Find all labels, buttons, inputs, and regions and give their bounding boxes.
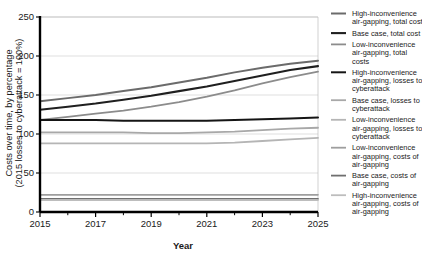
x-tick-label: 2017: [85, 218, 106, 229]
legend-label: costs: [352, 57, 370, 66]
line-chart: 050100150200250 201520172019202120232025…: [0, 0, 422, 253]
series-line-5: [40, 138, 318, 143]
legend-item-5[interactable]: Low-inconvenienceair-gapping, losses toc…: [331, 115, 422, 141]
legend-item-0[interactable]: High-inconvenienceair-gapping, total cos…: [331, 9, 422, 26]
series-line-4: [40, 128, 318, 133]
legend-item-8[interactable]: High-inconvenienceair-gapping, costs ofa…: [331, 191, 419, 217]
legend-label: air-gapping: [352, 207, 389, 216]
legend-item-7[interactable]: Base case, costs ofair-gapping: [331, 171, 417, 188]
chart-container: 050100150200250 201520172019202120232025…: [0, 0, 422, 253]
y-tick-label: 250: [18, 11, 34, 22]
legend-label: Base case, total cost: [352, 29, 420, 38]
gridlines: [40, 17, 318, 173]
x-tick-label: 2025: [307, 218, 328, 229]
y-axis-title-line1: Costs over time, by percentage: [4, 49, 14, 176]
y-tick-label: 50: [23, 167, 34, 178]
x-tick-label: 2023: [252, 218, 273, 229]
x-tick-label: 2021: [196, 218, 217, 229]
legend-label: cyberattack: [352, 84, 390, 93]
chart-legend: High-inconvenienceair-gapping, total cos…: [331, 9, 422, 216]
x-axis: 201520172019202120232025: [29, 212, 328, 229]
legend-label: air-gapping: [352, 179, 389, 188]
series-group: [40, 61, 318, 201]
legend-item-2[interactable]: Low-inconvenienceair-gapping, totalcosts: [331, 40, 415, 66]
legend-item-4[interactable]: Base case, losses tocyberattack: [331, 96, 420, 113]
y-tick-label: 0: [29, 206, 34, 217]
legend-item-3[interactable]: High-inconvenienceair-gapping, losses to…: [331, 68, 422, 94]
y-axis-title-line2: (2015 losses to cyberattack = 100%): [14, 39, 24, 188]
legend-label: air-gapping, total cost: [352, 17, 422, 26]
legend-item-6[interactable]: Low-inconvenienceair-gapping, costs ofai…: [331, 143, 419, 169]
legend-label: cyberattack: [352, 104, 390, 113]
legend-label: cyberattack: [352, 132, 390, 141]
legend-item-1[interactable]: Base case, total cost: [331, 29, 420, 38]
legend-label: air-gapping: [352, 160, 389, 169]
x-axis-title: Year: [173, 240, 193, 251]
x-tick-label: 2015: [29, 218, 50, 229]
x-tick-label: 2019: [141, 218, 162, 229]
series-line-3: [40, 118, 318, 121]
series-line-1: [40, 66, 318, 110]
